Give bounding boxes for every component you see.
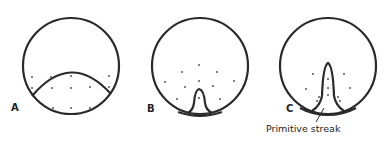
- primitive-streak: [312, 63, 344, 111]
- embryonic-disc-outline: [152, 18, 248, 114]
- primitive-streak-label: Primitive streak: [266, 123, 341, 134]
- embryo-development-diagram: A B C Primitive streak: [0, 0, 387, 144]
- cell-dots: [164, 64, 235, 100]
- cell-dots: [305, 73, 351, 102]
- panel-label-b: B: [147, 103, 155, 114]
- embryonic-disc-outline: [23, 18, 119, 114]
- panel-label-a: A: [11, 102, 19, 113]
- early-streak: [188, 89, 212, 113]
- panel-b: B: [147, 18, 248, 116]
- embryonic-disc-outline: [280, 18, 376, 114]
- panel-label-c: C: [286, 103, 293, 114]
- panel-c: C Primitive streak: [266, 18, 376, 134]
- panel-a: A: [11, 18, 119, 114]
